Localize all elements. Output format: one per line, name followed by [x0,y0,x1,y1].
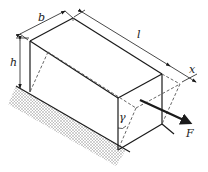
label-b: b [38,11,45,24]
shear-angle-arc [118,126,126,129]
force-arrow [140,100,188,122]
label-x: x [189,63,196,76]
label-h: h [10,56,17,69]
dimension-b [20,11,73,40]
fixed-wall [8,86,130,166]
dimension-l [74,10,170,66]
label-l: l [137,28,141,41]
dimension-h [16,38,29,88]
shear-block-diagram: b l x h γ F [0,0,208,172]
block-solid [30,18,174,150]
label-gamma: γ [119,111,126,124]
label-F: F [185,127,194,140]
